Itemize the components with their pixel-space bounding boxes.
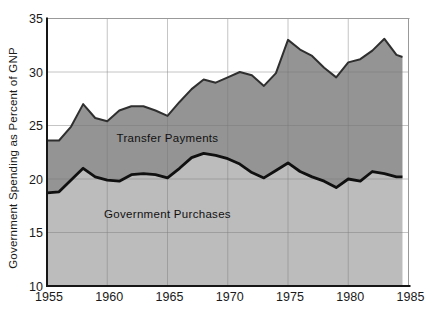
transfer-payments-label: Transfer Payments — [117, 132, 219, 144]
x-tick-label: 1970 — [216, 290, 244, 304]
x-tick-label: 1980 — [336, 290, 364, 304]
y-tick-label: 35 — [29, 12, 43, 26]
chart-plot: 1015202530351955196019651970197519801985 — [0, 0, 435, 315]
x-tick-label: 1985 — [397, 290, 425, 304]
y-tick-label: 30 — [29, 66, 43, 80]
x-tick-label: 1955 — [35, 290, 63, 304]
chart-container: 1015202530351955196019651970197519801985… — [0, 0, 435, 315]
x-tick-label: 1960 — [95, 290, 123, 304]
x-tick-label: 1975 — [276, 290, 304, 304]
government-purchases-label: Government Purchases — [104, 208, 231, 220]
y-tick-label: 20 — [29, 173, 43, 187]
y-tick-label: 15 — [29, 226, 43, 240]
y-tick-label: 25 — [29, 119, 43, 133]
y-axis-title: Government Spending as Percent of GNP — [7, 47, 19, 269]
x-tick-label: 1965 — [156, 290, 184, 304]
